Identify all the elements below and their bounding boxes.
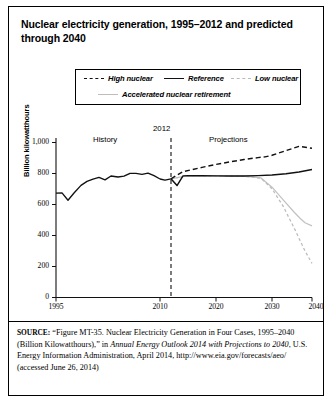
source-prefix: SOURCE: bbox=[17, 328, 50, 337]
series-line-history-tail bbox=[160, 179, 171, 180]
series-line-history bbox=[56, 173, 160, 200]
figure-container: Nuclear electricity generation, 1995–201… bbox=[8, 6, 324, 396]
series-line-low-nuclear bbox=[171, 176, 312, 264]
x-axis-ticks bbox=[56, 298, 312, 302]
series-line-reference bbox=[171, 170, 312, 186]
source-note-box: SOURCE: “Figure MT-35. Nuclear Electrici… bbox=[9, 321, 323, 395]
series-line-high-nuclear bbox=[171, 146, 312, 178]
y-axis-ticks bbox=[52, 143, 56, 298]
series-line-accelerated-nuclear-retirement bbox=[171, 176, 312, 226]
source-note: SOURCE: “Figure MT-35. Nuclear Electrici… bbox=[17, 327, 315, 374]
source-text-italic: Annual Energy Outlook 2014 with Projecti… bbox=[110, 340, 288, 349]
